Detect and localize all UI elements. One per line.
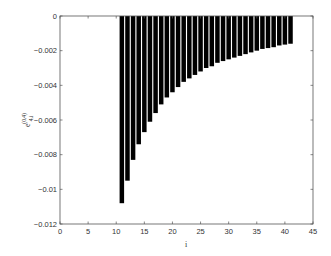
bar xyxy=(131,16,135,160)
bar xyxy=(136,16,140,144)
bar xyxy=(215,16,219,63)
x-tick-label: 40 xyxy=(281,227,289,236)
bar xyxy=(125,16,129,181)
y-tick-label: −0.006 xyxy=(34,116,57,125)
y-axis-label-sup: (0,4) xyxy=(21,113,28,124)
y-tick-label: −0.002 xyxy=(34,46,57,55)
bar xyxy=(165,16,169,97)
bar xyxy=(249,16,253,52)
bar xyxy=(260,16,264,49)
bar xyxy=(232,16,236,58)
bar xyxy=(283,16,287,45)
bar xyxy=(221,16,225,61)
bar xyxy=(148,16,152,122)
x-tick-label: 5 xyxy=(86,227,90,236)
bar-chart: 051015202530354045 0−0.002−0.004−0.006−0… xyxy=(0,0,331,256)
x-tick-label: 45 xyxy=(309,227,317,236)
x-tick-label: 25 xyxy=(196,227,204,236)
x-tick-label: 10 xyxy=(112,227,120,236)
bar xyxy=(181,16,185,82)
bar xyxy=(255,16,259,51)
y-tick-label: −0.012 xyxy=(34,220,57,229)
bar xyxy=(142,16,146,132)
bar xyxy=(277,16,281,45)
bar xyxy=(238,16,242,56)
svg-text:e 4,i (0,4): e 4,i (0,4) xyxy=(21,113,35,127)
bar xyxy=(187,16,191,78)
y-axis-label-sub: 4,i xyxy=(28,115,34,121)
bar xyxy=(226,16,230,59)
y-tick-label: −0.008 xyxy=(34,150,57,159)
bar xyxy=(120,16,124,203)
bar xyxy=(198,16,202,71)
x-tick-label: 30 xyxy=(224,227,232,236)
y-tick-label: −0.004 xyxy=(34,81,57,90)
bar xyxy=(204,16,208,68)
y-tick-label: −0.01 xyxy=(38,185,57,194)
bar xyxy=(159,16,163,104)
bar-series xyxy=(120,16,293,203)
y-axis-label: e 4,i (0,4) xyxy=(21,113,35,127)
x-tick-label: 15 xyxy=(140,227,148,236)
bar xyxy=(176,16,180,87)
bar xyxy=(271,16,275,47)
bar xyxy=(210,16,214,66)
bar xyxy=(266,16,270,48)
bar xyxy=(170,16,174,92)
x-axis-label: i xyxy=(185,240,188,249)
bar xyxy=(193,16,197,75)
x-tick-label: 0 xyxy=(58,227,62,236)
bar xyxy=(153,16,157,113)
bar xyxy=(288,16,292,44)
x-tick-label: 20 xyxy=(168,227,176,236)
bar xyxy=(243,16,247,54)
x-tick-label: 35 xyxy=(253,227,261,236)
y-tick-label: 0 xyxy=(53,12,57,21)
